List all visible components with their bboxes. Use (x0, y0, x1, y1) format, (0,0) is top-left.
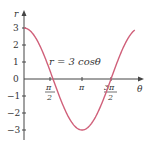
x-tick-pi: π (78, 83, 85, 92)
svg-text:2: 2 (107, 93, 113, 102)
theta-axis-arrow-icon (138, 77, 144, 82)
y-tick-neg3: −3 (7, 125, 21, 135)
svg-text:π: π (45, 83, 52, 92)
svg-text:2: 2 (46, 93, 52, 102)
x-tick-pi-over-2: π 2 (45, 83, 55, 102)
y-tick-1: 1 (13, 57, 19, 67)
y-tick-2: 2 (13, 40, 19, 50)
theta-axis-label: θ (137, 84, 143, 94)
polar-cartesian-chart: r θ 3 2 1 0 −1 −2 −3 π 2 π 3π 2 r = 3 co… (0, 0, 152, 154)
r-axis-label: r (14, 9, 19, 19)
y-tick-neg2: −2 (7, 108, 20, 118)
y-tick-neg1: −1 (7, 91, 20, 101)
r-axis-arrow-icon (22, 10, 27, 16)
y-tick-0: 0 (13, 74, 19, 84)
y-tick-3: 3 (13, 23, 19, 33)
equation-annotation: r = 3 cosθ (49, 56, 101, 67)
